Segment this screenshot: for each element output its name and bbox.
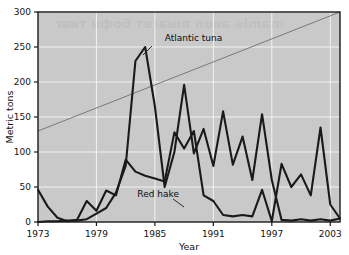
x-axis-tick-label: 1985 bbox=[143, 229, 166, 239]
y-axis-tick-label: 200 bbox=[14, 77, 31, 87]
y-axis-tick-label: 300 bbox=[14, 7, 31, 17]
annotation-label: Red hake bbox=[137, 189, 179, 199]
y-axis-tick-label: 50 bbox=[20, 182, 32, 192]
y-axis-title: Metric tons bbox=[4, 90, 15, 143]
y-axis: 050100150200250300 bbox=[14, 7, 38, 227]
y-axis-tick-label: 150 bbox=[14, 112, 31, 122]
x-axis-tick-label: 1997 bbox=[260, 229, 283, 239]
chart-figure: ınamie авол пшагет бофн тивг 05010015020… bbox=[0, 0, 349, 255]
chart-canvas: ınamie авол пшагет бофн тивг 05010015020… bbox=[0, 0, 349, 255]
x-axis-tick-label: 1979 bbox=[85, 229, 108, 239]
y-axis-tick-label: 250 bbox=[14, 42, 31, 52]
x-axis-tick-label: 1991 bbox=[202, 229, 225, 239]
background-bleed-text: ınamie авол пшагет бофн тивг bbox=[55, 16, 284, 31]
y-axis-tick-label: 100 bbox=[14, 147, 31, 157]
x-axis-tick-label: 1973 bbox=[27, 229, 50, 239]
x-axis: 197319791985199119972003 bbox=[27, 222, 342, 239]
x-axis-title: Year bbox=[178, 241, 199, 252]
annotation-label: Atlantic tuna bbox=[165, 33, 223, 43]
ghost-text-line: ınamie авол пшагет бофн тивг bbox=[55, 16, 284, 31]
x-axis-tick-label: 2003 bbox=[319, 229, 342, 239]
y-axis-tick-label: 0 bbox=[25, 217, 31, 227]
